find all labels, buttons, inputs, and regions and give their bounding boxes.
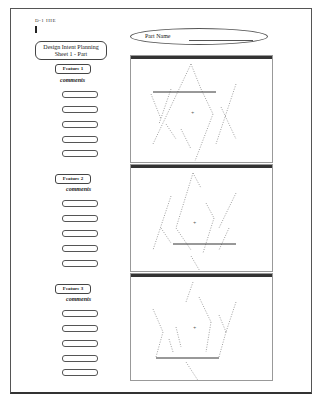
sketch-drawing-icon: +: [131, 277, 273, 381]
feature-1-button[interactable]: Feature 1: [55, 64, 91, 74]
document-id: D-1 IIIE: [35, 18, 56, 23]
comment-field-2-4[interactable]: [62, 245, 98, 252]
comments-label-1: comments: [60, 77, 85, 83]
comment-field-1-3[interactable]: [62, 121, 98, 128]
feature-2-button[interactable]: Feature 2: [55, 174, 91, 184]
comment-field-1-2[interactable]: [62, 106, 98, 113]
comment-field-3-2[interactable]: [62, 325, 98, 332]
comment-field-3-1[interactable]: [62, 310, 98, 317]
sheet-title-box: Design Intent Planning Sheet 1 - Part: [35, 41, 107, 60]
feature-3-button[interactable]: Feature 3: [55, 284, 91, 294]
feature-1-screenshot: +: [130, 55, 273, 163]
comment-field-3-4[interactable]: [62, 355, 98, 362]
sheet-title-line2: Sheet 1 - Part: [36, 51, 106, 58]
comment-field-1-5[interactable]: [62, 150, 98, 157]
comment-field-2-2[interactable]: [62, 215, 98, 222]
sketch-drawing-icon: +: [131, 168, 273, 272]
comment-field-2-3[interactable]: [62, 230, 98, 237]
comment-field-3-3[interactable]: [62, 340, 98, 347]
sheet-title-line1: Design Intent Planning: [36, 44, 106, 51]
part-name-field[interactable]: Part Name: [130, 28, 268, 45]
comment-field-3-5[interactable]: [62, 369, 98, 376]
svg-text:+: +: [193, 220, 196, 225]
comments-label-3: comments: [66, 296, 91, 302]
comment-field-2-5[interactable]: [62, 260, 98, 267]
cursor-bar: [35, 26, 37, 33]
svg-text:+: +: [193, 325, 196, 330]
comment-field-2-1[interactable]: [62, 200, 98, 207]
comments-label-2: comments: [66, 186, 91, 192]
sketch-drawing-icon: +: [131, 59, 273, 163]
comment-field-1-4[interactable]: [62, 136, 98, 143]
feature-3-screenshot: +: [130, 273, 273, 381]
part-name-underline: [189, 40, 253, 41]
part-name-label: Part Name: [145, 33, 171, 39]
comment-field-1-1[interactable]: [62, 91, 98, 98]
feature-2-screenshot: +: [130, 164, 273, 272]
svg-text:+: +: [191, 110, 194, 115]
